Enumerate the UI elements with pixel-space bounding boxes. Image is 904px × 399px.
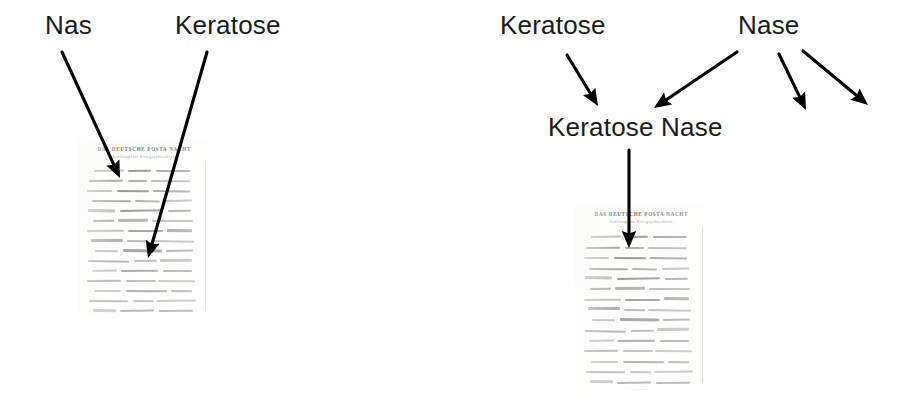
label-nas: Nas	[45, 10, 92, 40]
label-keratose-nase-merged: Keratose Nase	[548, 112, 723, 142]
scan-paper-wash	[78, 140, 208, 318]
left-panel: Nas Keratose DAS DEUTSCHE POSTA NACHT Sc…	[0, 0, 452, 399]
figure-canvas: Nas Keratose DAS DEUTSCHE POSTA NACHT Sc…	[0, 0, 904, 399]
manuscript-scan-left: DAS DEUTSCHE POSTA NACHT Schlossplatz Kr…	[78, 140, 208, 318]
label-nase-right: Nase	[738, 10, 800, 40]
right-panel: Keratose Nase Keratose Nase DAS DEUTSCHE…	[452, 0, 904, 399]
label-keratose-left: Keratose	[175, 10, 281, 40]
scan-paper-wash	[575, 205, 705, 390]
label-keratose-right: Keratose	[500, 10, 606, 40]
manuscript-scan-right: DAS DEUTSCHE POSTA NACHT Schlossplatz Kr…	[575, 205, 705, 390]
